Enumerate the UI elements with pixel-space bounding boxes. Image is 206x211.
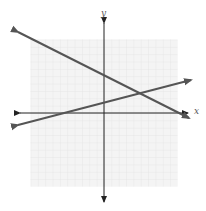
- x-axis-label: x: [194, 106, 199, 116]
- y-axis-label: y: [101, 8, 106, 18]
- coordinate-plane: [0, 0, 206, 211]
